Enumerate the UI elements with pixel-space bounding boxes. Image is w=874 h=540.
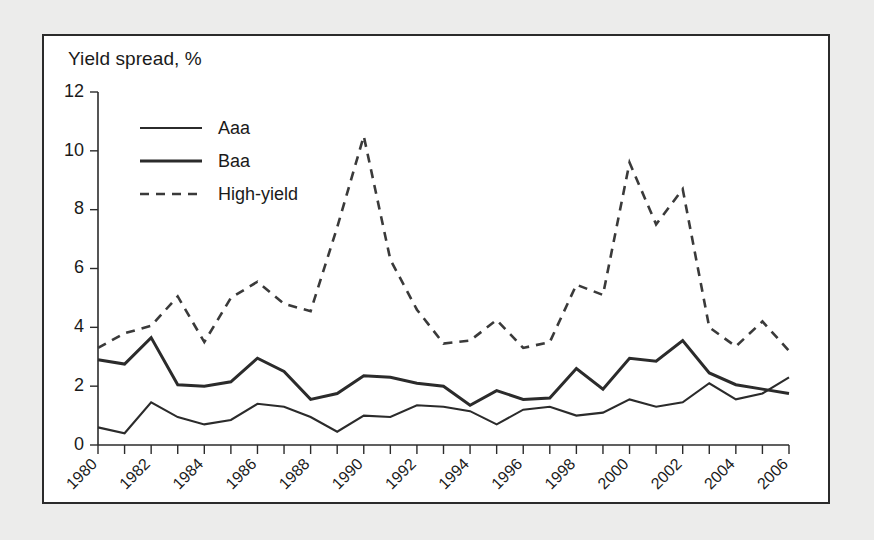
- series-line-baa: [98, 338, 789, 406]
- x-tick-label: 1988: [276, 455, 313, 492]
- series-line-high-yield: [98, 136, 789, 351]
- x-axis-group: 1980198219841986198819901992199419961998…: [63, 445, 791, 492]
- x-tick-label: 2002: [648, 455, 685, 492]
- x-tick-label: 1980: [63, 455, 100, 492]
- y-tick-label: 12: [64, 81, 84, 101]
- x-tick-label: 1986: [222, 455, 259, 492]
- legend-label-baa: Baa: [218, 151, 251, 171]
- x-tick-label: 1996: [488, 455, 525, 492]
- y-tick-label: 6: [74, 257, 84, 277]
- y-axis-group: 024681012: [64, 81, 98, 454]
- x-tick-label: 1984: [169, 455, 206, 492]
- y-tick-label: 4: [74, 316, 84, 336]
- y-tick-label: 10: [64, 140, 84, 160]
- data-series-group: [98, 136, 789, 433]
- y-tick-label: 0: [74, 434, 84, 454]
- x-tick-label: 1992: [382, 455, 419, 492]
- x-tick-label: 1998: [541, 455, 578, 492]
- x-tick-label: 1994: [435, 455, 472, 492]
- line-chart: 024681012 198019821984198619881990199219…: [44, 36, 832, 506]
- chart-card: Yield spread, % 024681012 19801982198419…: [42, 34, 830, 504]
- chart-legend: AaaBaaHigh-yield: [140, 118, 298, 204]
- y-tick-label: 2: [74, 375, 84, 395]
- x-tick-label: 1990: [329, 455, 366, 492]
- y-tick-labels: 024681012: [64, 81, 84, 454]
- y-tick-label: 8: [74, 198, 84, 218]
- x-tick-label: 2004: [701, 455, 738, 492]
- y-tick-marks: [90, 92, 98, 445]
- x-tick-labels: 1980198219841986198819901992199419961998…: [63, 455, 791, 492]
- legend-label-high-yield: High-yield: [218, 184, 298, 204]
- x-tick-label: 2000: [594, 455, 631, 492]
- x-tick-marks: [98, 445, 789, 454]
- x-tick-label: 2006: [754, 455, 791, 492]
- page-background: Yield spread, % 024681012 19801982198419…: [0, 0, 874, 540]
- x-tick-label: 1982: [116, 455, 153, 492]
- legend-label-aaa: Aaa: [218, 118, 251, 138]
